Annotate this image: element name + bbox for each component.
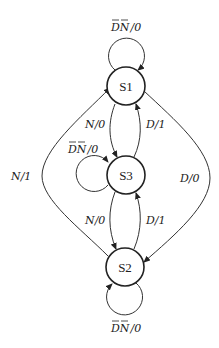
self-loop-s1 bbox=[109, 38, 145, 70]
label-s2-s3: D/1 bbox=[145, 214, 166, 227]
edge-s3-s1 bbox=[134, 104, 140, 157]
self-loop-s2 bbox=[107, 283, 143, 315]
svg-text:DN/0: DN/0 bbox=[110, 21, 141, 34]
svg-text:DN/0: DN/0 bbox=[110, 322, 141, 335]
label-s2-s1: N/1 bbox=[10, 170, 31, 183]
svg-text:S3: S3 bbox=[119, 168, 133, 183]
label-s1-s3: N/0 bbox=[84, 118, 105, 131]
label-s1-loop: DN/0 bbox=[110, 20, 141, 34]
svg-text:DN/0: DN/0 bbox=[67, 143, 98, 156]
label-s3-s2: N/0 bbox=[84, 214, 105, 227]
self-loop-s3 bbox=[76, 156, 108, 192]
label-s1-s2: D/0 bbox=[179, 172, 200, 185]
state-s2: S2 bbox=[106, 248, 144, 286]
edge-s3-s2 bbox=[110, 192, 116, 249]
state-s3: S3 bbox=[107, 156, 145, 194]
svg-text:S1: S1 bbox=[119, 79, 133, 94]
edge-s1-s3 bbox=[110, 104, 117, 157]
label-s3-loop: DN/0 bbox=[67, 142, 98, 156]
state-diagram: S1 S3 S2 DN/0 N/0 D/1 DN/0 N/0 D/1 N/1 D… bbox=[0, 0, 219, 348]
svg-text:S2: S2 bbox=[118, 260, 132, 275]
edge-s1-s2 bbox=[144, 91, 210, 262]
label-s3-s1: D/1 bbox=[145, 118, 166, 131]
edge-s2-s3 bbox=[134, 193, 140, 249]
label-s2-loop: DN/0 bbox=[110, 321, 141, 335]
state-s1: S1 bbox=[107, 67, 145, 105]
